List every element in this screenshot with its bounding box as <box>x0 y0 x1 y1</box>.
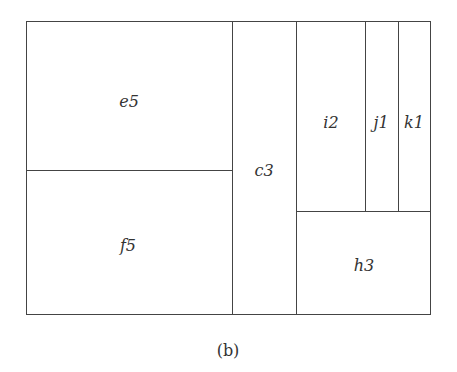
label-h3: h3 <box>354 256 374 275</box>
label-f5: f5 <box>120 236 136 255</box>
label-j1: j1 <box>373 113 388 132</box>
figure-caption: (b) <box>217 341 240 360</box>
label-e5: e5 <box>119 92 139 111</box>
label-c3: c3 <box>254 161 273 180</box>
label-i2: i2 <box>323 113 338 132</box>
label-k1: k1 <box>404 113 424 132</box>
